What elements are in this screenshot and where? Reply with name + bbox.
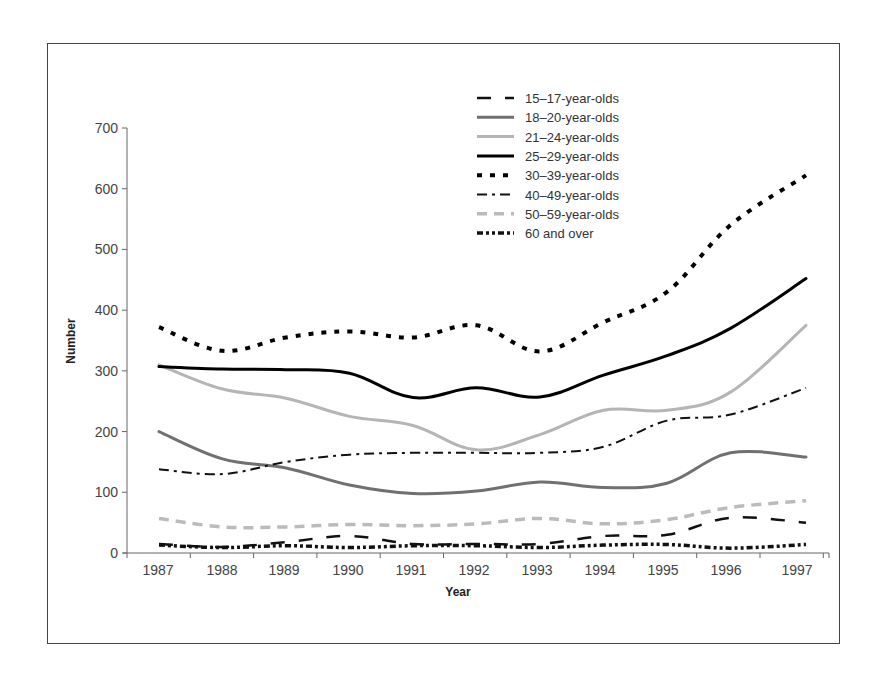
legend-label: 15–17-year-olds <box>525 91 619 106</box>
x-tick-label: 1997 <box>781 562 812 578</box>
y-tick-label: 200 <box>95 424 119 440</box>
x-tick-label: 1988 <box>206 562 237 578</box>
series-line-2 <box>159 432 806 494</box>
series-line-7 <box>159 501 806 528</box>
series-lines <box>159 175 806 548</box>
legend-label: 18–20-year-olds <box>525 110 619 125</box>
legend-label: 50–59-year-olds <box>525 207 619 222</box>
legend-label: 21–24-year-olds <box>525 130 619 145</box>
x-tick-label: 1994 <box>584 562 615 578</box>
y-tick-label: 700 <box>95 120 119 136</box>
y-tick-label: 300 <box>95 363 119 379</box>
x-tick-label: 1991 <box>395 562 426 578</box>
x-tick-label: 1996 <box>710 562 741 578</box>
x-tick-label: 1987 <box>142 562 173 578</box>
x-tick-label: 1995 <box>647 562 678 578</box>
y-tick-label: 600 <box>95 181 119 197</box>
legend-label: 40–49-year-olds <box>525 188 619 203</box>
series-line-5 <box>159 175 806 351</box>
x-tick-label: 1989 <box>268 562 299 578</box>
legend-label: 25–29-year-olds <box>525 149 619 164</box>
legend: 15–17-year-olds18–20-year-olds21–24-year… <box>477 91 619 241</box>
legend-label: 60 and over <box>525 226 594 241</box>
y-tick-label: 0 <box>110 545 118 561</box>
y-tick-label: 100 <box>95 484 119 500</box>
x-tick-label: 1992 <box>458 562 489 578</box>
y-tick-label: 500 <box>95 241 119 257</box>
x-tick-label: 1993 <box>521 562 552 578</box>
x-tick-label: 1990 <box>332 562 363 578</box>
y-axis-title: Number <box>64 318 78 364</box>
line-chart: 0100200300400500600700198719881989199019… <box>0 0 880 688</box>
x-axis-title: Year <box>445 585 471 599</box>
legend-label: 30–39-year-olds <box>525 168 619 183</box>
series-line-4 <box>159 279 806 398</box>
y-tick-label: 400 <box>95 302 119 318</box>
